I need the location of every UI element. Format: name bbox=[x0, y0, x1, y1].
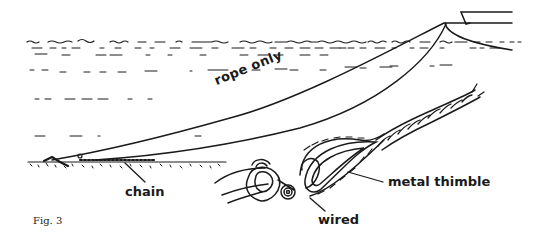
diagram-artwork bbox=[0, 0, 547, 235]
wired-label: wired bbox=[318, 212, 359, 227]
boat-bow bbox=[445, 12, 512, 50]
chain-label: chain bbox=[125, 184, 164, 199]
figure-caption: Fig. 3 bbox=[33, 215, 62, 226]
anchor-rode-diagram: rope only chain metal thimble wired Fig.… bbox=[0, 0, 547, 235]
thimble-leader bbox=[348, 172, 383, 182]
water-surface bbox=[27, 40, 521, 44]
chain-leader bbox=[125, 163, 145, 182]
wired-leader bbox=[310, 198, 325, 211]
metal-thimble-label: metal thimble bbox=[388, 174, 490, 189]
